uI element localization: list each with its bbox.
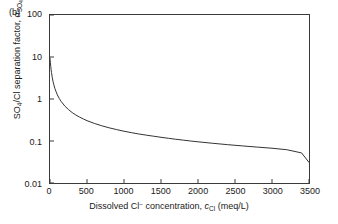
x-tick-label: 2000 — [188, 187, 208, 196]
data-series-line — [50, 58, 309, 162]
x-tick-label: 2500 — [225, 187, 245, 196]
y-axis-title: SO4/Cl separation factor, αSO4/Cl — [13, 0, 24, 141]
x-axis-title: Dissolved Cl− concentration, cCl (meq/L) — [0, 202, 338, 212]
plot-area — [49, 14, 310, 184]
y-axis-tickmarks — [50, 15, 54, 183]
y-tick-label: 0.1 — [29, 137, 42, 146]
x-axis-title-text: Dissolved Cl− concentration, cCl (meq/L) — [89, 201, 248, 211]
x-tick-label: 3000 — [263, 187, 283, 196]
x-axis-ticklabels: 0500100015002000250030003500 — [49, 187, 310, 199]
x-tick-label: 3500 — [300, 187, 320, 196]
alpha-subscript: SO4/Cl — [16, 0, 23, 12]
x-tick-label: 1500 — [151, 187, 171, 196]
y-axis-title-text: SO4/Cl separation factor, αSO4/Cl — [12, 0, 22, 119]
plot-canvas — [50, 15, 309, 183]
alpha-symbol: α — [12, 12, 22, 17]
x-tick-label: 0 — [46, 187, 51, 196]
x-axis-tickmarks — [50, 179, 309, 183]
x-tick-label: 500 — [79, 187, 94, 196]
y-tick-label: 100 — [27, 10, 42, 19]
y-tick-label: 1 — [37, 95, 42, 104]
x-tick-label: 1000 — [114, 187, 134, 196]
y-tick-label: 0.01 — [24, 180, 42, 189]
y-tick-label: 10 — [32, 52, 42, 61]
figure-panel-b: (b) 0.010.1110100 SO4/Cl separation fact… — [0, 0, 338, 224]
